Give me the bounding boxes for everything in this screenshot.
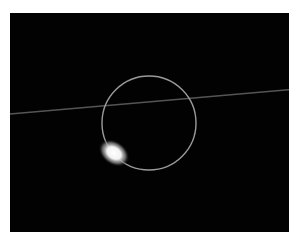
astronomical-image xyxy=(0,0,297,246)
streak xyxy=(10,89,297,114)
bright-blob xyxy=(93,133,135,172)
